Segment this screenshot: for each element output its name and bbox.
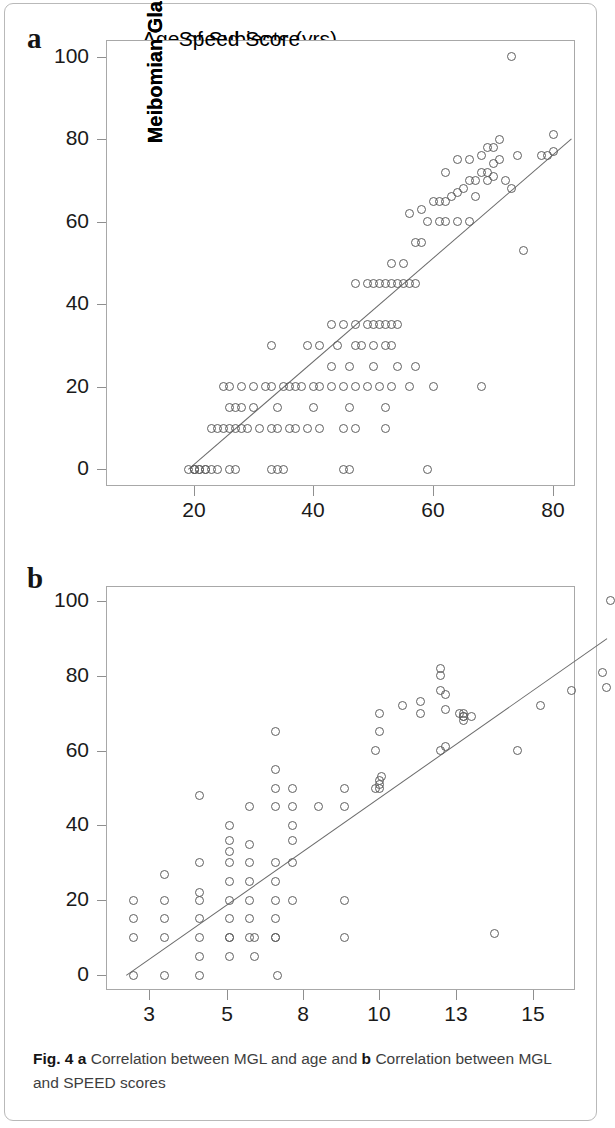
data-point	[602, 683, 611, 692]
y-axis-title-b: Meibomian Gland Loss [%]	[144, 0, 167, 166]
data-point	[271, 784, 280, 793]
data-point	[288, 784, 297, 793]
x-tick-label-b: 13	[426, 1002, 486, 1026]
data-point	[271, 765, 280, 774]
data-point	[129, 971, 138, 980]
x-tick-label-b: 5	[197, 1002, 257, 1026]
data-point	[271, 877, 280, 886]
data-point	[160, 896, 169, 905]
chart-panel-b: Meibomian Gland Loss [%] Speed Score 020…	[5, 4, 598, 1039]
data-point	[225, 896, 234, 905]
data-point	[271, 802, 280, 811]
data-point	[160, 870, 169, 879]
data-point	[398, 701, 407, 710]
y-tick-label-b: 60	[1, 738, 89, 762]
data-point	[271, 933, 280, 942]
figure-card: a Meibomian Gland Loss [%] Age of Subjec…	[4, 3, 597, 1121]
data-point	[436, 664, 445, 673]
data-point	[195, 971, 204, 980]
data-point	[340, 784, 349, 793]
caption-marker-b: b	[362, 1050, 371, 1067]
data-point	[225, 952, 234, 961]
x-tick-b	[303, 990, 304, 1000]
x-tick-b	[533, 990, 534, 1000]
x-axis-title-b: Speed Score	[5, 27, 474, 51]
x-tick-b	[149, 990, 150, 1000]
y-tick-b	[97, 975, 106, 976]
data-point	[271, 727, 280, 736]
data-point	[271, 896, 280, 905]
data-point	[225, 877, 234, 886]
data-point	[225, 836, 234, 845]
y-tick-b	[97, 825, 106, 826]
x-tick-label-b: 8	[273, 1002, 333, 1026]
data-point	[129, 933, 138, 942]
y-tick-b	[97, 676, 106, 677]
data-point	[340, 896, 349, 905]
data-point	[314, 802, 323, 811]
x-tick-b	[379, 990, 380, 1000]
data-point	[375, 727, 384, 736]
data-point	[371, 746, 380, 755]
data-point	[375, 709, 384, 718]
data-point	[195, 952, 204, 961]
y-tick-b	[97, 601, 106, 602]
y-tick-b	[97, 751, 106, 752]
y-tick-label-b: 20	[1, 887, 89, 911]
data-point	[245, 840, 254, 849]
data-point	[129, 896, 138, 905]
y-tick-label-b: 80	[1, 663, 89, 687]
x-tick-label-b: 10	[349, 1002, 409, 1026]
caption-figure-number: Fig. 4	[33, 1050, 73, 1067]
y-tick-label-b: 40	[1, 812, 89, 836]
y-tick-label-b: 100	[1, 588, 89, 612]
x-tick-label-b: 15	[503, 1002, 563, 1026]
data-point	[245, 896, 254, 905]
y-tick-b	[97, 900, 106, 901]
y-tick-label-b: 0	[1, 962, 89, 986]
x-tick-b	[227, 990, 228, 1000]
data-point	[195, 896, 204, 905]
data-point	[416, 697, 425, 706]
data-point	[271, 858, 280, 867]
x-tick-b	[456, 990, 457, 1000]
data-point	[598, 668, 607, 677]
data-point	[273, 971, 282, 980]
caption-marker-a: a	[78, 1050, 87, 1067]
data-point	[225, 821, 234, 830]
caption-divider	[10, 1039, 592, 1040]
data-point	[606, 596, 615, 605]
data-point	[160, 971, 169, 980]
caption-text-a: Correlation between MGL and age and	[91, 1050, 358, 1067]
x-tick-label-b: 3	[119, 1002, 179, 1026]
data-point	[416, 709, 425, 718]
figure-caption: Fig. 4 a Correlation between MGL and age…	[33, 1047, 553, 1095]
